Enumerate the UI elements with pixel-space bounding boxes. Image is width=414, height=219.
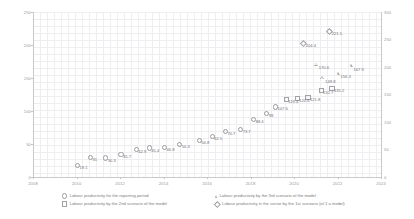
y-axis-right-ticks: 300250200150100500 <box>384 12 404 177</box>
y-axis-left-tick-label: 0 <box>15 175 31 180</box>
chart-legend: Labour productivity for the reporting pe… <box>0 193 414 217</box>
y-axis-left-tick-label: 50 <box>15 142 31 147</box>
y-axis-left-tick-label: 100 <box>15 109 31 114</box>
x-axis-tick-label: 2014 <box>151 181 177 186</box>
y-axis-left-tick-label: 200 <box>15 43 31 48</box>
y-axis-right-tick-label: 200 <box>384 65 402 70</box>
data-point-label: 42.9 <box>138 150 146 155</box>
y-axis-right-line <box>381 12 382 177</box>
data-point-label: 45.4 <box>151 149 159 154</box>
data-point-label: 62.5 <box>214 137 222 142</box>
legend-marker-triangle-icon <box>215 195 217 198</box>
x-axis-tick-label: 2022 <box>325 181 351 186</box>
y-axis-left-tick-mark <box>31 78 33 79</box>
y-axis-left-tick-label: 150 <box>15 76 31 81</box>
y-axis-right-tick-label: 100 <box>384 120 402 125</box>
data-point-label: 35.7 <box>123 155 131 160</box>
data-point-label: 149.8 <box>325 80 335 85</box>
data-point-label: 120.6 <box>299 99 309 104</box>
data-point-triangle[interactable] <box>320 76 324 79</box>
x-axis-tick-label: 2010 <box>64 181 90 186</box>
data-point-label: 50.3 <box>182 145 190 150</box>
x-axis-tick-mark <box>33 177 34 179</box>
x-axis-ticks: 200820102012201420162018202020222024 <box>33 180 382 189</box>
x-axis-tick-mark <box>381 177 382 179</box>
x-axis-tick-label: 2008 <box>20 181 46 186</box>
data-point-label: 132.7 <box>323 91 333 96</box>
x-axis-tick-mark <box>251 177 252 179</box>
legend-item[interactable]: Labour productivity for the reporting pe… <box>62 193 149 199</box>
x-axis-tick-label: 2018 <box>238 181 264 186</box>
legend-label: Labour productivity for the reporting pe… <box>70 193 149 199</box>
data-point-label: 30.3 <box>108 159 116 164</box>
data-point-label: 221.5 <box>332 32 342 37</box>
y-axis-right-tick-label: 300 <box>384 10 402 15</box>
y-axis-left-tick-label: 250 <box>15 10 31 15</box>
x-axis-tick-mark <box>77 177 78 179</box>
data-point-label: 98 <box>269 114 274 119</box>
y-axis-left-tick-mark <box>31 45 33 46</box>
data-point-label: 156.3 <box>341 75 351 80</box>
y-axis-right-tick-label: 250 <box>384 37 402 42</box>
scatter-chart: 19.13130.335.742.945.446.850.356.862.570… <box>0 0 414 219</box>
data-point-label: 73.7 <box>243 130 251 135</box>
data-point-label: 121.8 <box>310 98 320 103</box>
data-point-triangle[interactable] <box>349 64 353 67</box>
x-axis-tick-mark <box>294 177 295 179</box>
x-axis-tick-label: 2024 <box>368 181 394 186</box>
data-point-label: 19.1 <box>80 166 88 171</box>
data-point-triangle[interactable] <box>336 72 340 75</box>
data-point-triangle[interactable] <box>314 63 318 66</box>
legend-marker-circle-icon <box>62 193 67 198</box>
data-point-label: 119.4 <box>288 100 298 105</box>
data-point-label: 88.4 <box>256 120 264 125</box>
data-point-label: 167.9 <box>354 68 364 73</box>
data-point-label: 46.8 <box>167 148 175 153</box>
y-axis-left-line <box>33 12 34 177</box>
y-axis-left-ticks: 250200150100500 <box>13 12 31 177</box>
x-axis-tick-label: 2016 <box>194 181 220 186</box>
legend-label: Labour productivity by the 3rd scenario … <box>220 193 316 199</box>
x-axis-tick-mark <box>207 177 208 179</box>
y-axis-right-tick-label: 150 <box>384 92 402 97</box>
plot-area: 19.13130.335.742.945.446.850.356.862.570… <box>33 12 381 177</box>
data-point-label: 70.7 <box>227 132 235 137</box>
legend-label: Labour productivity by the 2nd scenario … <box>70 201 167 207</box>
data-point-label: 170.6 <box>319 66 329 71</box>
data-point-label: 204.4 <box>306 44 316 49</box>
y-axis-left-tick-mark <box>31 144 33 145</box>
x-axis-tick-label: 2012 <box>107 181 133 186</box>
y-axis-left-tick-mark <box>31 12 33 13</box>
data-point-label: 56.8 <box>201 141 209 146</box>
y-axis-right-tick-label: 50 <box>384 147 402 152</box>
x-axis-tick-mark <box>164 177 165 179</box>
legend-item[interactable]: Labour productivity by the 2nd scenario … <box>62 201 167 207</box>
legend-item[interactable]: Labour productivity by the 3rd scenario … <box>215 193 316 199</box>
data-point-label: 135.2 <box>334 89 344 94</box>
x-axis-tick-label: 2020 <box>281 181 307 186</box>
x-axis-tick-mark <box>120 177 121 179</box>
data-point-label: 107.6 <box>277 107 287 112</box>
data-point-label: 275 <box>360 0 367 2</box>
y-axis-right-tick-label: 0 <box>384 175 402 180</box>
legend-item[interactable]: Labour productivity in the sector by the… <box>215 201 345 207</box>
x-axis-tick-mark <box>338 177 339 179</box>
legend-label: Labour productivity in the sector by the… <box>222 201 345 207</box>
legend-marker-diamond-icon <box>214 201 220 207</box>
legend-marker-square-icon <box>62 201 67 206</box>
y-axis-left-tick-mark <box>31 111 33 112</box>
data-point-label: 31 <box>93 158 98 163</box>
